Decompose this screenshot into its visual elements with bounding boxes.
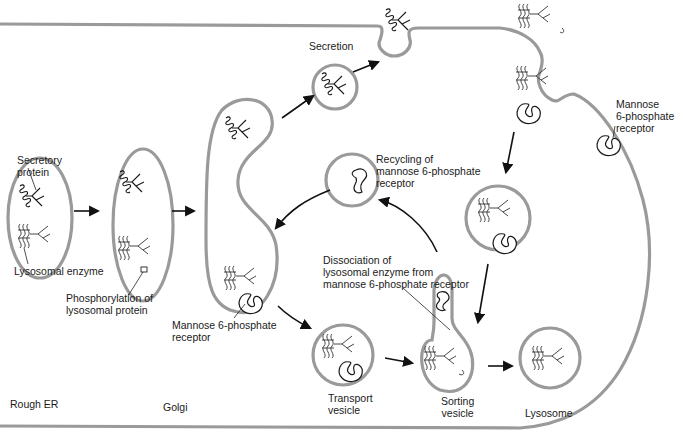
label-lysosomal-enzyme: Lysosomal enzyme xyxy=(14,265,103,277)
diagram-canvas: Secretory protein Lysosomal enzyme Phosp… xyxy=(0,0,683,438)
label-rough-er: Rough ER xyxy=(10,398,58,410)
secretory-vesicle xyxy=(313,65,357,109)
label-m6p-receptor-membrane: Mannose 6-phosphate receptor xyxy=(616,98,674,134)
label-golgi: Golgi xyxy=(163,401,188,413)
label-transport-vesicle: Transport vesicle xyxy=(328,392,373,416)
label-phosphorylation: Phosphorylation of lysosomal protein xyxy=(66,292,153,316)
label-recycling: Recycling of mannose 6-phosphate recepto… xyxy=(376,153,481,189)
label-secretory-protein: Secretory protein xyxy=(17,154,62,178)
recycling-vesicle xyxy=(326,154,378,206)
label-secretion: Secretion xyxy=(309,40,353,52)
pathway-illustration xyxy=(0,0,683,438)
label-m6p-receptor-golgi: Mannose 6-phosphate receptor xyxy=(172,319,277,343)
golgi-cis-vesicle xyxy=(113,149,173,301)
label-dissociation: Dissociation of lysosomal enzyme from ma… xyxy=(323,254,469,290)
plasma-membrane-top xyxy=(0,24,649,428)
label-lysosome: Lysosome xyxy=(525,407,572,419)
lysosome xyxy=(520,328,580,388)
label-sorting-vesicle: Sorting vesicle xyxy=(441,395,474,419)
